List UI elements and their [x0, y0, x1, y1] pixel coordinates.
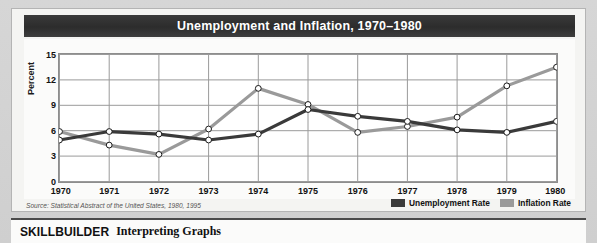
legend-swatch: [391, 199, 405, 207]
line-chart-svg: [59, 54, 557, 182]
data-point-marker: [59, 137, 62, 143]
x-axis-tick-label: 1973: [199, 186, 219, 196]
x-axis-tick-labels: 1970197119721973197419751976197719781979…: [58, 186, 558, 198]
legend-label: Unemployment Rate: [409, 198, 490, 208]
y-axis-tick-label: 0: [40, 177, 56, 187]
x-axis-tick-label: 1977: [397, 186, 417, 196]
skillbuilder-bar: SKILLBUILDER Interpreting Graphs: [11, 218, 586, 243]
data-point-marker: [454, 127, 460, 133]
data-point-marker: [504, 83, 510, 89]
data-point-marker: [554, 118, 557, 124]
data-point-marker: [156, 152, 162, 158]
data-point-marker: [554, 64, 557, 70]
x-axis-tick-label: 1971: [99, 186, 119, 196]
plot-area: [58, 53, 558, 183]
legend-swatch: [500, 199, 514, 207]
y-axis-tick-labels: 03691215: [36, 53, 56, 183]
y-axis-title: Percent: [26, 83, 36, 95]
skillbuilder-kicker: SKILLBUILDER: [20, 225, 109, 239]
skillbuilder-subtitle: Interpreting Graphs: [116, 224, 221, 239]
figure-card: Unemployment and Inflation, 1970–1980 Pe…: [11, 8, 586, 212]
data-point-marker: [305, 107, 311, 113]
data-point-marker: [255, 85, 261, 91]
data-point-marker: [355, 129, 361, 135]
data-point-marker: [59, 129, 62, 135]
y-axis-tick-label: 3: [40, 151, 56, 161]
x-axis-tick-label: 1978: [447, 186, 467, 196]
x-axis-tick-label: 1974: [248, 186, 268, 196]
y-axis-tick-label: 15: [40, 50, 56, 60]
y-axis-tick-label: 9: [40, 100, 56, 110]
data-point-marker: [206, 137, 212, 143]
data-point-marker: [106, 142, 112, 148]
chart-title-bar: Unemployment and Inflation, 1970–1980: [24, 15, 575, 37]
data-point-marker: [206, 126, 212, 132]
data-point-marker: [156, 131, 162, 137]
x-axis-tick-label: 1976: [348, 186, 368, 196]
legend-entry: Unemployment Rate: [391, 198, 490, 208]
source-note: Source: Statistical Abstract of the Unit…: [26, 202, 201, 209]
x-axis-tick-label: 1970: [51, 186, 71, 196]
data-point-marker: [454, 114, 460, 120]
legend-entry: Inflation Rate: [500, 198, 571, 208]
x-axis-tick-label: 1979: [497, 186, 517, 196]
data-point-marker: [106, 129, 112, 135]
y-axis-tick-label: 6: [40, 126, 56, 136]
page-background: Unemployment and Inflation, 1970–1980 Pe…: [0, 0, 597, 243]
data-point-marker: [405, 118, 411, 124]
page-title: Unemployment and Inflation, 1970–1980: [177, 19, 422, 33]
plot-wrapper: Percent 03691215 19701971197219731974197…: [24, 39, 575, 199]
data-point-marker: [355, 113, 361, 119]
x-axis-tick-label: 1980: [545, 186, 565, 196]
data-point-marker: [255, 131, 261, 137]
data-point-marker: [504, 129, 510, 135]
chart-legend: Unemployment RateInflation Rate: [391, 198, 571, 208]
y-axis-tick-label: 12: [40, 75, 56, 85]
x-axis-tick-label: 1972: [149, 186, 169, 196]
legend-label: Inflation Rate: [518, 198, 571, 208]
x-axis-tick-label: 1975: [298, 186, 318, 196]
vertical-gridlines: [60, 54, 557, 182]
